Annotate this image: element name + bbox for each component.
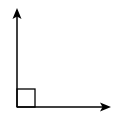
right-angle-diagram [0, 0, 120, 123]
